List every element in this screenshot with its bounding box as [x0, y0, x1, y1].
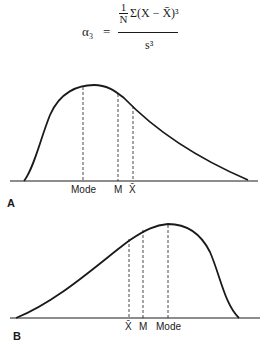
panel-label-a: A: [7, 197, 15, 209]
mean-label-a: X̄: [129, 184, 136, 195]
curve-b: [16, 224, 239, 318]
median-label-b: M: [139, 321, 147, 332]
curve-a: [24, 85, 248, 181]
skew-curves-diagram: [0, 0, 265, 349]
mode-label-a: Mode: [71, 184, 96, 195]
panel-label-b: B: [13, 330, 21, 342]
median-label-a: M: [114, 184, 122, 195]
mode-label-b: Mode: [156, 321, 181, 332]
mean-label-b: X̄: [125, 321, 132, 332]
